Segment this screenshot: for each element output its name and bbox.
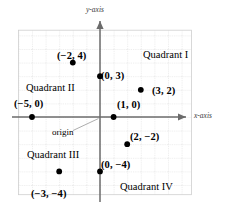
point-1-0-label: (1, 0) — [117, 100, 140, 111]
x-axis-label: x-axis — [194, 112, 212, 120]
y-axis-arrow-icon — [96, 21, 103, 29]
quadrant-3-label: Quadrant III — [27, 150, 79, 161]
coordinate-plane-figure: y-axis x-axis origin Quadrant I Quadrant… — [0, 0, 233, 217]
point-neg3-neg4-label: (−3, −4) — [31, 189, 67, 200]
point-neg5-0-dot — [29, 114, 35, 120]
y-axis-label: y-axis — [86, 6, 104, 14]
quadrant-1-label: Quadrant I — [143, 50, 188, 61]
point-0-3-label: (0, 3) — [101, 71, 124, 82]
point-neg3-neg4-dot — [56, 169, 62, 175]
point-1-0-dot — [111, 114, 117, 120]
point-3-2-label: (3, 2) — [152, 86, 175, 97]
origin-label: origin — [52, 128, 74, 137]
point-neg2-4-label: (−2, 4) — [57, 51, 86, 62]
quadrant-2-label: Quadrant II — [26, 83, 75, 94]
point-neg5-0-label: (−5, 0) — [14, 99, 43, 110]
point-0-neg4-label: (0, −4) — [101, 160, 130, 171]
quadrant-4-label: Quadrant IV — [120, 182, 173, 193]
point-2-neg2-label: (2, −2) — [130, 132, 159, 143]
point-3-2-dot — [138, 87, 144, 93]
